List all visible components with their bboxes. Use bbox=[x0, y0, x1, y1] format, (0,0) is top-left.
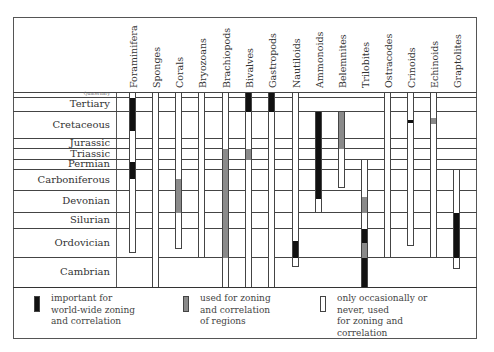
legend-swatch-occasional bbox=[320, 296, 326, 312]
range-bar-corals bbox=[175, 92, 182, 249]
range-segment-important bbox=[246, 93, 251, 112]
legend-swatch-important bbox=[34, 296, 40, 312]
range-segment-regional bbox=[246, 149, 251, 160]
range-bar-bryozoans bbox=[198, 92, 205, 258]
group-header-ammonoids: Ammonoids bbox=[315, 32, 325, 88]
range-segment-important bbox=[362, 229, 367, 243]
range-segment-important bbox=[454, 213, 459, 258]
range-bar-ostracodes bbox=[384, 92, 391, 258]
legend-swatch-regional bbox=[183, 296, 189, 312]
group-header-bryozoans: Bryozoans bbox=[198, 38, 208, 88]
range-segment-important bbox=[362, 258, 367, 288]
period-label-devonian: Devonian bbox=[62, 196, 110, 206]
group-header-sponges: Sponges bbox=[152, 47, 162, 88]
range-bar-graptolites bbox=[453, 169, 460, 269]
range-segment-regional bbox=[431, 118, 436, 124]
period-label-tertiary: Tertiary bbox=[70, 99, 110, 109]
period-label-quaternary: Quaternary bbox=[84, 92, 110, 97]
group-header-corals: Corals bbox=[175, 57, 185, 88]
range-bar-sponges bbox=[152, 92, 159, 288]
range-bar-bivalves bbox=[245, 92, 252, 288]
period-label-jurassic: Jurassic bbox=[70, 138, 110, 148]
range-bar-brachiopods bbox=[222, 92, 229, 288]
range-segment-important bbox=[269, 93, 274, 112]
range-bar-trilobites bbox=[361, 159, 368, 288]
group-header-graptolites: Graptolites bbox=[453, 34, 463, 88]
range-bar-crinoids bbox=[407, 92, 414, 246]
range-bar-foraminifera bbox=[129, 92, 136, 253]
range-bar-nautiloids bbox=[292, 92, 299, 267]
range-segment-important bbox=[130, 98, 135, 131]
group-header-gastropods: Gastropods bbox=[268, 33, 278, 88]
range-segment-important bbox=[316, 112, 321, 199]
group-header-belemnites: Belemnites bbox=[338, 34, 348, 88]
legend-item-important: important for world-wide zoning and corr… bbox=[34, 293, 135, 328]
legend-divider bbox=[13, 287, 477, 288]
range-segment-regional bbox=[223, 149, 228, 258]
range-bar-ammonoids bbox=[315, 111, 322, 213]
group-header-brachiopods: Brachiopods bbox=[222, 28, 232, 88]
fossil-zoning-chart: QuaternaryTertiaryCretaceousJurassicTria… bbox=[0, 0, 494, 352]
legend-label-occasional: only occasionally or never, used for zon… bbox=[337, 293, 427, 339]
group-header-nautiloids: Nautiloids bbox=[292, 38, 302, 88]
group-header-echinoids: Echinoids bbox=[430, 41, 440, 88]
range-bar-belemnites bbox=[338, 111, 345, 188]
period-label-triassic: Triassic bbox=[70, 149, 110, 159]
range-segment-important bbox=[130, 162, 135, 179]
legend-label-important: important for world-wide zoning and corr… bbox=[51, 293, 135, 328]
period-label-silurian: Silurian bbox=[70, 215, 110, 225]
period-label-permian: Permian bbox=[68, 159, 110, 169]
group-header-foraminifera: Foraminifera bbox=[129, 25, 139, 88]
range-bar-echinoids bbox=[430, 92, 437, 258]
range-segment-regional bbox=[339, 112, 344, 149]
legend-item-regional: used for zoning and correlation of regio… bbox=[183, 293, 271, 328]
range-segment-regional bbox=[176, 179, 181, 213]
period-label-cambrian: Cambrian bbox=[60, 267, 110, 277]
range-bar-gastropods bbox=[268, 92, 275, 288]
range-segment-important bbox=[408, 120, 413, 123]
legend-item-occasional: only occasionally or never, used for zon… bbox=[320, 293, 427, 339]
legend-label-regional: used for zoning and correlation of regio… bbox=[200, 293, 271, 328]
group-header-bivalves: Bivalves bbox=[245, 48, 255, 88]
range-segment-important bbox=[293, 241, 298, 258]
period-label-cretaceous: Cretaceous bbox=[53, 120, 110, 130]
range-segment-regional bbox=[362, 243, 367, 258]
group-header-trilobites: Trilobites bbox=[361, 42, 371, 88]
period-label-carboniferous: Carboniferous bbox=[38, 175, 110, 185]
period-label-ordovician: Ordovician bbox=[55, 238, 110, 248]
group-header-crinoids: Crinoids bbox=[407, 47, 417, 88]
group-header-ostracodes: Ostracodes bbox=[384, 34, 394, 88]
range-segment-regional bbox=[362, 197, 367, 213]
